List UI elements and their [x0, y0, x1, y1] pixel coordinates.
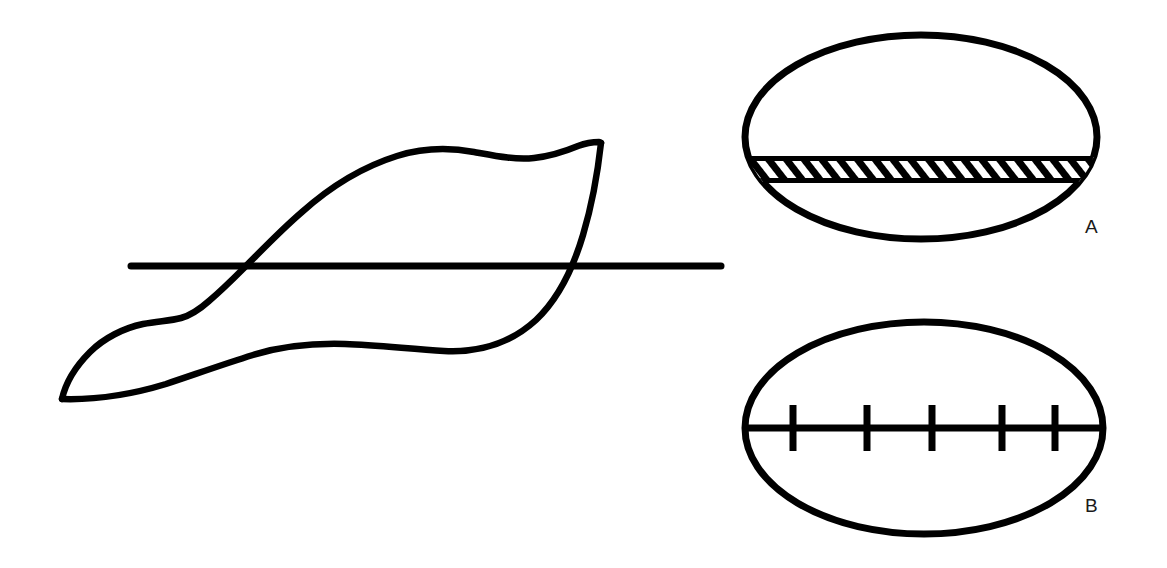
- panel-a-band-group: [735, 157, 1107, 182]
- panel-a-label: A: [1085, 216, 1098, 237]
- panel-b-label: B: [1085, 495, 1098, 516]
- panel-b: B: [745, 322, 1103, 534]
- figure-drawing: A B: [0, 0, 1167, 568]
- leaf-panel: [62, 142, 601, 399]
- figure-canvas: A B: [0, 0, 1167, 568]
- leaf-outline-lower-margin: [62, 143, 601, 399]
- panel-a: A: [735, 35, 1107, 239]
- leaf-outline: [62, 142, 601, 399]
- panel-a-ellipse: [745, 35, 1097, 239]
